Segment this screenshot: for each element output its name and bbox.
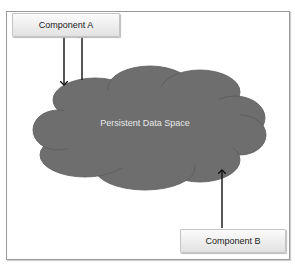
component-a-node: Component A	[12, 13, 120, 37]
diagram-canvas	[0, 0, 295, 265]
component-b-node: Component B	[180, 229, 286, 253]
cloud-shape	[33, 66, 266, 190]
component-b-label: Component B	[205, 236, 260, 246]
persistent-data-space-label: Persistent Data Space	[60, 118, 230, 128]
component-a-label: Component A	[39, 20, 94, 30]
